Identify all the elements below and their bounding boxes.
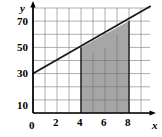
y-tick-label-70: 70 <box>0 16 28 27</box>
x-tick-label-2: 2 <box>53 117 59 128</box>
y-tick-label-50: 50 <box>0 42 28 53</box>
x-axis-label: x <box>152 120 158 131</box>
x-tick-label-4: 4 <box>77 117 83 128</box>
y-tick-label-30: 30 <box>0 68 28 79</box>
graph-figure: 10 30 50 70 0 2 4 6 8 y x <box>0 0 162 137</box>
y-axis-label: y <box>20 3 25 14</box>
x-tick-label-6: 6 <box>101 117 107 128</box>
x-tick-label-0: 0 <box>29 120 35 131</box>
x-tick-label-8: 8 <box>125 117 131 128</box>
y-tick-label-10: 10 <box>0 100 28 111</box>
